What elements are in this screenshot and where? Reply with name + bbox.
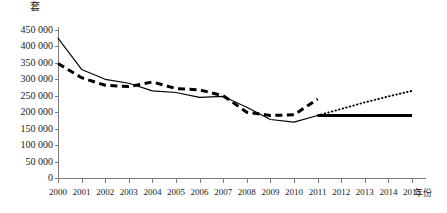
series-line-thin-solid-historical	[58, 38, 318, 122]
plot-area	[0, 0, 447, 213]
series-line-dotted-projection	[318, 91, 412, 116]
series-line-thick-dashed-historical	[58, 64, 318, 116]
chart-container: 套 年份 050 000100 000150 000200 000250 000…	[0, 0, 447, 213]
